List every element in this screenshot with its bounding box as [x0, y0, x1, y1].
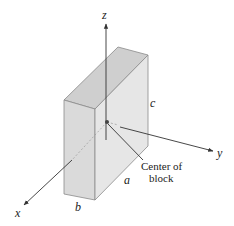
y-axis-label: y: [216, 146, 223, 160]
center-annotation-line1: Center of: [141, 160, 183, 172]
block-diagram: z y x c a b Center of block: [0, 0, 234, 226]
center-annotation-line2: block: [149, 172, 174, 184]
dimension-b-label: b: [75, 200, 81, 214]
dimension-a-label: a: [124, 173, 130, 187]
x-axis-label: x: [14, 206, 21, 220]
dimension-c-label: c: [150, 96, 156, 110]
center-point: [105, 120, 109, 124]
block-front-face: [64, 100, 95, 200]
z-axis-label: z: [101, 8, 107, 22]
